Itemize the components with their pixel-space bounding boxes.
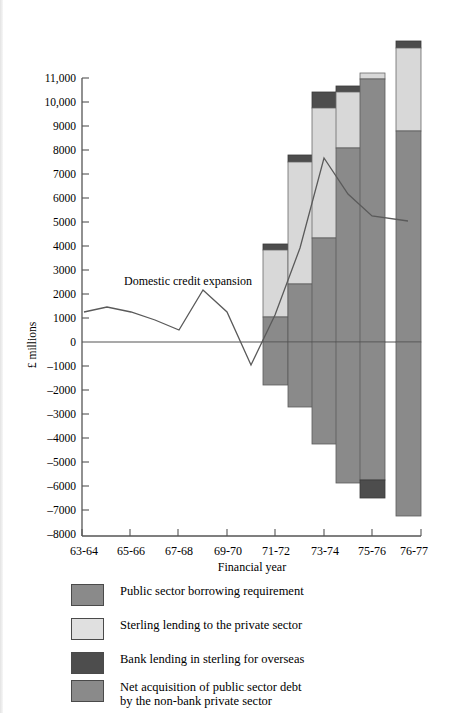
- bar-segment-sterling: [336, 92, 361, 148]
- y-tick-label: –5000: [46, 456, 76, 468]
- bar-segment-sterling: [360, 73, 385, 79]
- bar-segment-psbr: [360, 79, 385, 342]
- y-tick-label: –7000: [46, 504, 76, 516]
- bar-segment-netacq: [263, 342, 288, 385]
- x-tick-label: 65-66: [117, 544, 145, 558]
- y-tick-labels: 11,000 10,000 9000 8000 7000 6000 5000 4…: [44, 72, 76, 540]
- y-tick-label: –2000: [46, 384, 76, 396]
- chart-figure: 11,000 10,000 9000 8000 7000 6000 5000 4…: [0, 0, 450, 713]
- legend-swatch-net-acquisition: [71, 680, 104, 702]
- bar-group-76-77[interactable]: [396, 41, 421, 516]
- x-tick-label: 67-68: [165, 544, 193, 558]
- x-tick-label: 73-74: [311, 544, 339, 558]
- y-tick-label: 10,000: [44, 96, 76, 109]
- y-tick-label: 9000: [53, 120, 76, 132]
- bar-segment-overseas: [336, 86, 361, 92]
- bar-segment-overseas: [263, 244, 288, 250]
- bar-segment-psbr: [336, 148, 361, 342]
- bar-segment-netacq: [360, 342, 385, 480]
- y-tick-label: 5000: [53, 216, 76, 228]
- y-tick-label: –8000: [46, 528, 76, 540]
- y-tick-label: 6000: [53, 192, 76, 204]
- bar-segment-sterling: [263, 250, 288, 317]
- bar-segment-psbr: [288, 284, 313, 342]
- bar-segment-overseas: [312, 92, 337, 108]
- y-tick-label: 11,000: [45, 72, 76, 85]
- legend-item-sterling-lending: Sterling lending to the private sector: [71, 617, 302, 640]
- y-tick-label: 2000: [53, 288, 76, 300]
- bar-segment-psbr: [396, 131, 421, 342]
- bar-segment-sterling: [396, 48, 421, 131]
- legend-swatch-overseas-lending: [71, 652, 104, 674]
- bar-group-74-75[interactable]: [336, 86, 361, 483]
- y-tick-label: –4000: [46, 432, 76, 444]
- legend-item-overseas-lending: Bank lending in sterling for overseas: [71, 651, 304, 674]
- x-tick-marks: [82, 529, 421, 536]
- x-tick-labels: 63-64 65-66 67-68 69-70 71-72 73-74 75-7…: [70, 544, 428, 558]
- y-tick-label: 3000: [53, 264, 76, 276]
- legend-label-net-acquisition: Net acquisition of public sector debt by…: [120, 679, 302, 709]
- x-axis-title: Financial year: [218, 560, 286, 574]
- bar-segment-sterling: [288, 162, 313, 284]
- y-tick-label: 0: [70, 336, 76, 348]
- x-tick-label: 63-64: [70, 544, 98, 558]
- bar-segment-overseas: [288, 155, 313, 162]
- figure-page: 11,000 10,000 9000 8000 7000 6000 5000 4…: [0, 0, 450, 713]
- x-tick-label: 71-72: [262, 544, 290, 558]
- x-tick-label: 76-77: [400, 544, 428, 558]
- legend-label-overseas-lending: Bank lending in sterling for overseas: [120, 651, 304, 666]
- bar-segment-netacq: [288, 342, 313, 407]
- bar-segment-netacq: [396, 342, 421, 516]
- legend-label-psbr: Public sector borrowing requirement: [120, 583, 304, 598]
- line-annotation-label: Domestic credit expansion: [124, 274, 252, 288]
- y-tick-label: –1000: [46, 360, 76, 372]
- chart-svg: 11,000 10,000 9000 8000 7000 6000 5000 4…: [0, 0, 450, 713]
- y-tick-label: 7000: [53, 168, 76, 180]
- legend-label-sterling-lending: Sterling lending to the private sector: [120, 617, 302, 632]
- legend-item-net-acquisition: Net acquisition of public sector debt by…: [71, 679, 302, 709]
- y-tick-label: –6000: [46, 480, 76, 492]
- bar-segment-overseas-negative: [360, 480, 385, 498]
- bar-segment-overseas: [396, 41, 421, 48]
- bar-segment-netacq: [336, 342, 361, 483]
- bar-segment-psbr: [312, 238, 337, 342]
- y-tick-marks: [82, 78, 89, 510]
- x-tick-label: 75-76: [358, 544, 386, 558]
- bar-segment-psbr: [263, 317, 288, 342]
- y-tick-label: 4000: [53, 240, 76, 252]
- y-axis-title: £ millions: [26, 321, 38, 368]
- legend-swatch-sterling-lending: [71, 618, 104, 640]
- bar-segment-netacq: [312, 342, 337, 444]
- legend-item-psbr: Public sector borrowing requirement: [71, 583, 304, 606]
- y-tick-label: 1000: [53, 312, 76, 324]
- legend-swatch-psbr: [71, 584, 104, 606]
- bar-group-73-74[interactable]: [312, 92, 337, 444]
- y-tick-label: 8000: [53, 144, 76, 156]
- bar-group-75-76[interactable]: [360, 73, 385, 498]
- y-tick-label: –3000: [46, 408, 76, 420]
- x-tick-label: 69-70: [214, 544, 242, 558]
- bar-group-72-73[interactable]: [288, 155, 313, 407]
